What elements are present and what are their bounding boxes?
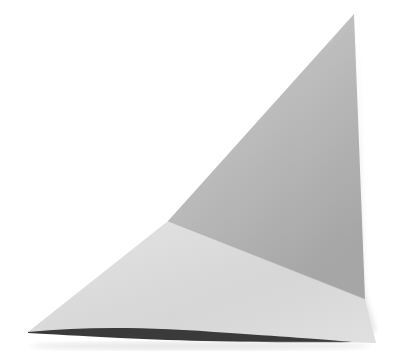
ground-shadow: [30, 342, 370, 350]
folded-paper-illustration: [0, 0, 411, 362]
photo-scene: A sheet of white paper folded into an ir…: [0, 0, 411, 362]
